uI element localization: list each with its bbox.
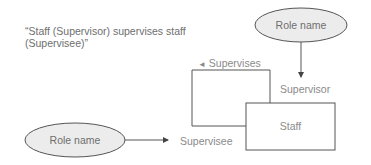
top-role-label: Role name: [255, 19, 347, 31]
relationship-description: “Staff (Supervisor) supervises staff (Su…: [25, 25, 195, 49]
supervisor-role-label: Supervisor: [280, 83, 330, 95]
bottom-role-label: Role name: [25, 134, 125, 146]
staff-entity-label: Staff: [246, 120, 335, 132]
description-line-2: (Supervisee)”: [25, 37, 195, 49]
direction-arrow-icon: ◄: [198, 60, 206, 69]
relationship-label: ◄ Supervises: [198, 57, 261, 69]
supervisee-role-label: Supervisee: [180, 135, 233, 147]
relationship-name: Supervises: [209, 57, 261, 69]
description-line-1: “Staff (Supervisor) supervises staff: [25, 25, 195, 37]
